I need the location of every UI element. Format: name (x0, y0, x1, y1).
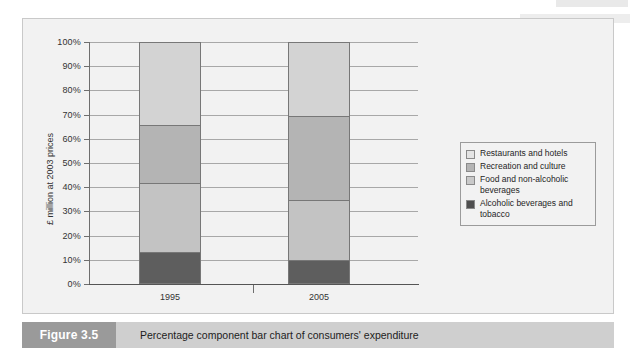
y-tick-label: 80% (62, 85, 81, 95)
bar-segment-1995-alcoholic-beverages-and-tobacco[interactable] (139, 252, 201, 284)
y-tick-mark (84, 236, 89, 237)
legend-label: Recreation and culture (480, 161, 566, 172)
y-tick-label: 40% (62, 182, 81, 192)
y-tick-label: 30% (62, 206, 81, 216)
y-tick-mark (84, 260, 89, 261)
y-tick-label: 0% (68, 279, 81, 289)
legend-item-food-and-non-alcoholic-beverages[interactable]: Food and non-alcoholic beverages (466, 174, 590, 196)
y-tick-label: 50% (62, 158, 81, 168)
y-tick-label: 70% (62, 110, 81, 120)
chart-frame: £ million at 2003 prices 100%90%80%70%60… (22, 18, 614, 314)
y-tick-label: 10% (62, 255, 81, 265)
legend-label: Food and non-alcoholic beverages (480, 174, 590, 196)
plot-area: 100%90%80%70%60%50%40%30%20%10%0% 199520… (89, 42, 418, 284)
figure-caption-bar: Figure 3.5 Percentage component bar char… (22, 322, 614, 348)
y-tick-mark (84, 90, 89, 91)
legend-label: Alcoholic beverages and tobacco (480, 198, 590, 220)
figure-number-label: Figure 3.5 (40, 328, 99, 342)
y-tick-label: 100% (57, 37, 81, 47)
legend-swatch-icon (466, 163, 475, 172)
x-tick-label-1995: 1995 (160, 292, 180, 302)
bar-segment-2005-food-and-non-alcoholic-beverages[interactable] (288, 200, 350, 260)
y-tick-label: 60% (62, 134, 81, 144)
bar-segment-2005-alcoholic-beverages-and-tobacco[interactable] (288, 260, 350, 284)
legend-swatch-icon (466, 150, 475, 159)
y-tick-mark (84, 187, 89, 188)
bar-2005[interactable] (288, 42, 350, 284)
y-tick-mark (84, 211, 89, 212)
legend-item-alcoholic-beverages-and-tobacco[interactable]: Alcoholic beverages and tobacco (466, 198, 590, 220)
chart-legend: Restaurants and hotelsRecreation and cul… (460, 142, 596, 226)
bar-segment-1995-recreation-and-culture[interactable] (139, 125, 201, 183)
x-tick-label-2005: 2005 (309, 292, 329, 302)
bar-segment-2005-restaurants-and-hotels[interactable] (288, 42, 350, 116)
y-tick-mark (84, 163, 89, 164)
legend-label: Restaurants and hotels (480, 148, 567, 159)
y-axis-title: £ million at 2003 prices (45, 133, 55, 225)
figure-number-box: Figure 3.5 (22, 322, 116, 348)
figure-caption-text-wrap: Percentage component bar chart of consum… (116, 322, 614, 348)
y-tick-mark (84, 66, 89, 67)
bar-segment-2005-recreation-and-culture[interactable] (288, 116, 350, 200)
legend-item-restaurants-and-hotels[interactable]: Restaurants and hotels (466, 148, 590, 159)
y-tick-mark (84, 284, 89, 285)
figure-caption-text: Percentage component bar chart of consum… (140, 329, 419, 341)
y-tick-mark (84, 42, 89, 43)
y-tick-label: 90% (62, 61, 81, 71)
x-axis-tick-mid (253, 285, 254, 293)
y-tick-mark (84, 115, 89, 116)
legend-item-recreation-and-culture[interactable]: Recreation and culture (466, 161, 590, 172)
bar-segment-1995-restaurants-and-hotels[interactable] (139, 42, 201, 125)
bar-1995[interactable] (139, 42, 201, 284)
y-axis-line (89, 42, 90, 285)
y-tick-mark (84, 139, 89, 140)
legend-swatch-icon (466, 200, 475, 209)
y-tick-label: 20% (62, 231, 81, 241)
legend-swatch-icon (466, 176, 475, 185)
scan-artifact-top-right (556, 0, 628, 7)
bar-segment-1995-food-and-non-alcoholic-beverages[interactable] (139, 183, 201, 252)
x-axis-line (89, 284, 419, 285)
